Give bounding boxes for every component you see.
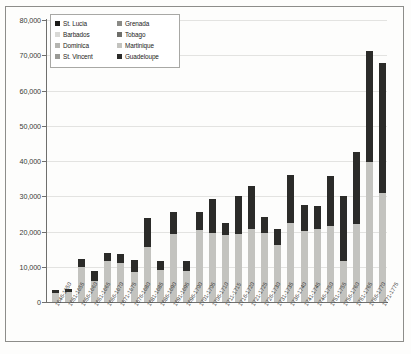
legend-swatch-icon — [117, 21, 122, 26]
legend-label: St. Lucia — [63, 20, 87, 27]
y-axis-tick-mark — [42, 302, 47, 303]
y-axis-tick-mark — [42, 55, 47, 56]
gridline — [47, 161, 387, 162]
legend-swatch-icon — [55, 54, 60, 59]
y-axis-tick-label: 20,000 — [1, 228, 41, 237]
y-axis-tick-mark — [42, 126, 47, 127]
y-axis-tick-label: 70,000 — [1, 51, 41, 60]
bar-segment — [340, 196, 347, 261]
y-axis-tick-label: 40,000 — [1, 157, 41, 166]
bar — [353, 152, 360, 302]
bar-segment — [78, 259, 85, 268]
bar-segment — [131, 260, 138, 272]
bar-segment — [91, 271, 98, 282]
legend-item[interactable]: St. Vincent — [55, 51, 93, 62]
gridline — [47, 91, 387, 92]
y-axis-tick-label: 0 — [1, 298, 41, 307]
bar-segment — [222, 223, 229, 235]
bar-segment — [353, 152, 360, 224]
legend-item[interactable]: Martinique — [117, 40, 159, 51]
legend-swatch-icon — [117, 43, 122, 48]
legend-label: Martinique — [125, 42, 154, 49]
chart-legend: St. LuciaBarbadosDominicaSt. Vincent Gre… — [50, 14, 180, 68]
bar-segment — [104, 253, 111, 261]
legend-item[interactable]: Dominica — [55, 40, 93, 51]
bar-segment — [379, 63, 386, 194]
y-axis-tick-mark — [42, 161, 47, 162]
gridline — [47, 126, 387, 127]
bar-segment — [196, 212, 203, 231]
legend-swatch-icon — [55, 21, 60, 26]
legend-label: Grenada — [125, 20, 149, 27]
bar-segment — [261, 217, 268, 233]
gridline — [47, 232, 387, 233]
gridline — [47, 267, 387, 268]
legend-label: Barbados — [63, 31, 90, 38]
x-axis-labels: 1646-16501651-16551656-16601661-16651666… — [47, 304, 392, 354]
bar-segment — [209, 199, 216, 233]
bar-segment — [235, 196, 242, 235]
bar-segment — [301, 205, 308, 230]
legend-item[interactable]: Guadeloupe — [117, 51, 159, 62]
y-axis-tick-label: 60,000 — [1, 87, 41, 96]
legend-item[interactable]: Grenada — [117, 18, 159, 29]
bar-segment — [183, 261, 190, 271]
legend-swatch-icon — [117, 54, 122, 59]
y-axis-labels: 80,00070,00060,00050,00040,00030,00020,0… — [0, 0, 41, 354]
bar-segment — [366, 51, 373, 162]
legend-swatch-icon — [117, 32, 122, 37]
y-axis-tick-mark — [42, 91, 47, 92]
bar-segment — [287, 175, 294, 222]
y-axis-tick-label: 30,000 — [1, 192, 41, 201]
bar-segment — [327, 176, 334, 226]
y-axis-tick-mark — [42, 20, 47, 21]
bar-segment — [248, 186, 255, 229]
bar-segment — [117, 254, 124, 262]
legend-column-left: St. LuciaBarbadosDominicaSt. Vincent — [55, 18, 93, 62]
legend-item[interactable]: St. Lucia — [55, 18, 93, 29]
y-axis-tick-label: 10,000 — [1, 263, 41, 272]
y-axis-tick-mark — [42, 196, 47, 197]
y-axis-tick-mark — [42, 232, 47, 233]
bar-segment — [144, 218, 151, 247]
legend-label: Tobago — [125, 31, 145, 38]
bar-segment — [314, 206, 321, 229]
legend-swatch-icon — [55, 32, 60, 37]
y-axis-tick-label: 80,000 — [1, 16, 41, 25]
legend-item[interactable]: Tobago — [117, 29, 159, 40]
legend-item[interactable]: Barbados — [55, 29, 93, 40]
y-axis-tick-label: 50,000 — [1, 122, 41, 131]
legend-label: Dominica — [63, 42, 89, 49]
bar-segment — [170, 212, 177, 234]
chart-page: 80,00070,00060,00050,00040,00030,00020,0… — [0, 0, 411, 354]
legend-label: Guadeloupe — [125, 53, 159, 60]
legend-swatch-icon — [55, 43, 60, 48]
bar — [379, 63, 386, 302]
bar-segment — [274, 229, 281, 245]
legend-column-right: GrenadaTobagoMartiniqueGuadeloupe — [117, 18, 159, 62]
gridline — [47, 196, 387, 197]
legend-label: St. Vincent — [63, 53, 93, 60]
y-axis-tick-mark — [42, 267, 47, 268]
bar — [366, 51, 373, 302]
bar-segment — [157, 261, 164, 270]
